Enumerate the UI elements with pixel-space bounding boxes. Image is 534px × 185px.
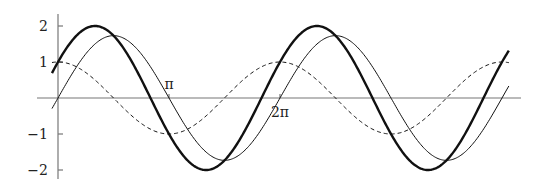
x-tick-label: 2π	[271, 104, 289, 120]
y-tick-label: 1	[39, 54, 48, 70]
y-tick-label: 2	[39, 18, 48, 34]
y-tick-label: −1	[27, 126, 48, 142]
sinusoid-chart: 21−1−2 π2π	[0, 0, 534, 185]
y-tick-label: −2	[27, 162, 48, 178]
x-tick-label: π	[164, 76, 173, 92]
